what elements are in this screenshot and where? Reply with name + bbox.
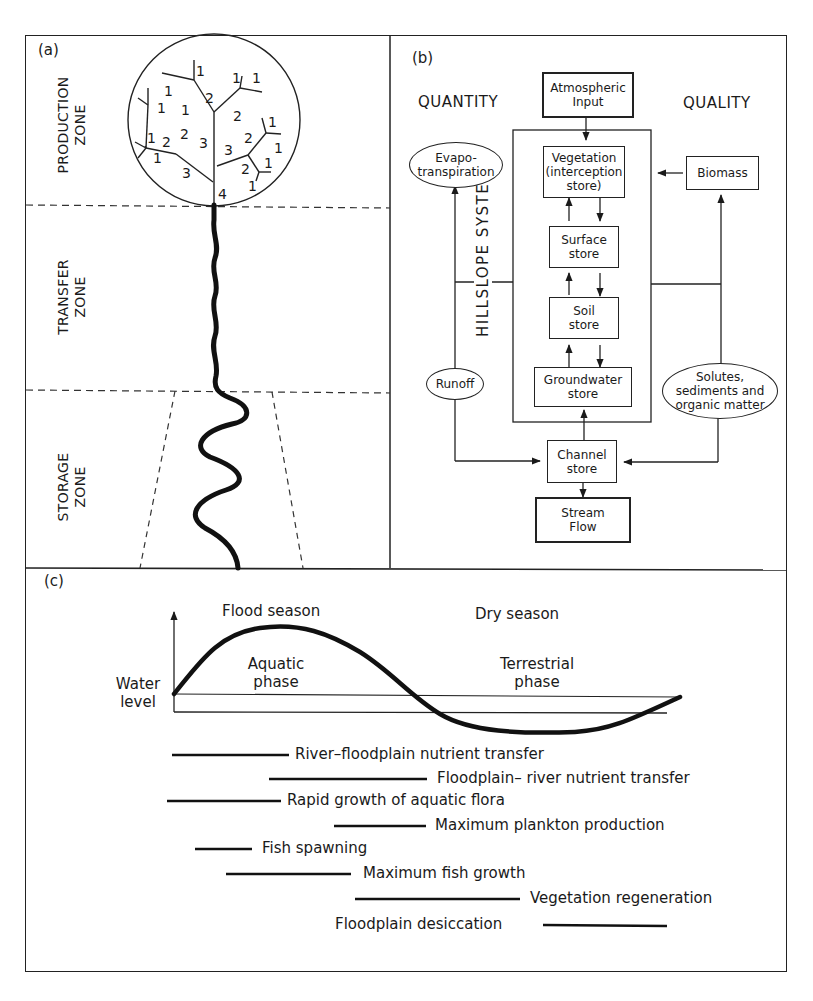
- node-surface-store: Surfacestore: [549, 226, 619, 268]
- order-1: 1: [196, 63, 205, 79]
- order-1: 1: [157, 100, 166, 116]
- dry-season-label: Dry season: [475, 605, 559, 623]
- node-evapotranspiration: Evapo-transpiration: [409, 142, 503, 188]
- heading-quality: QUALITY: [683, 94, 751, 112]
- order-1: 1: [153, 150, 162, 166]
- order-1: 1: [274, 140, 283, 156]
- node-runoff: Runoff: [426, 368, 484, 400]
- event-label: Vegetation regeneration: [530, 890, 712, 907]
- order-3: 3: [224, 142, 233, 158]
- order-2: 2: [233, 108, 242, 124]
- mean-level-line: [174, 694, 680, 697]
- event-label: Fish spawning: [262, 840, 367, 857]
- event-label: Floodplain desiccation: [335, 916, 502, 933]
- river-channel: [195, 205, 246, 568]
- node-stream-flow: StreamFlow: [535, 497, 631, 543]
- terrestrial-phase-label: Terrestrial phase: [487, 655, 587, 691]
- order-2: 2: [205, 90, 214, 106]
- panel-c-tag: (c): [44, 573, 64, 589]
- order-1: 1: [232, 70, 241, 86]
- node-groundwater-store: Groundwaterstore: [534, 367, 632, 407]
- panel-b-tag: (b): [412, 50, 433, 66]
- node-solutes-sediments: Solutes,sediments andorganic matter: [662, 363, 778, 419]
- node-biomass: Biomass: [686, 156, 759, 190]
- order-2: 2: [162, 134, 171, 150]
- event-label: River–floodplain nutrient transfer: [295, 746, 544, 763]
- figure-linework: [0, 0, 813, 1001]
- node-vegetation: Vegetation(interceptionstore): [543, 146, 625, 198]
- order-1: 1: [164, 83, 173, 99]
- order-1: 1: [264, 155, 273, 171]
- order-3: 3: [182, 165, 191, 181]
- zone-label-transfer: TRANSFER ZONE: [55, 247, 89, 347]
- order-4: 4: [218, 186, 227, 202]
- zone-label-storage: STORAGE ZONE: [55, 437, 89, 537]
- event-label: Rapid growth of aquatic flora: [287, 792, 505, 809]
- aquatic-phase-label: Aquatic phase: [236, 655, 316, 691]
- order-2: 2: [180, 126, 189, 142]
- node-atmospheric-input: AtmosphericInput: [542, 72, 634, 118]
- order-2: 2: [244, 130, 253, 146]
- event-label: Maximum plankton production: [435, 817, 665, 834]
- order-2: 2: [241, 161, 250, 177]
- order-1: 1: [181, 102, 190, 118]
- order-1: 1: [252, 70, 261, 86]
- x-axis: [174, 712, 667, 713]
- event-label: Floodplain– river nutrient transfer: [437, 770, 690, 787]
- divider-ab-c: [25, 568, 787, 570]
- y-axis-label: Water level: [113, 675, 163, 711]
- hillslope-system-label: HILLSLOPE SYSTEM: [474, 207, 492, 337]
- node-soil-store: Soilstore: [549, 297, 619, 339]
- order-1: 1: [147, 130, 156, 146]
- flood-season-label: Flood season: [222, 602, 320, 620]
- zone-label-production: PRODUCTION ZONE: [55, 70, 89, 180]
- heading-quantity: QUANTITY: [418, 93, 498, 111]
- event-label: Maximum fish growth: [363, 865, 525, 882]
- order-1: 1: [268, 114, 277, 130]
- node-channel-store: Channelstore: [547, 440, 617, 483]
- order-3: 3: [199, 135, 208, 151]
- panel-a-tag: (a): [38, 42, 59, 58]
- order-1: 1: [248, 178, 257, 194]
